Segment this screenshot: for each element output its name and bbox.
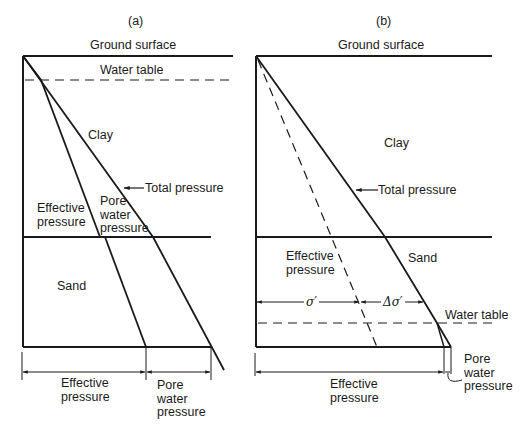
delta-sigma-prime-label: Δσ′ (381, 295, 405, 309)
panel-b-title: (b) (376, 14, 391, 28)
effective-pressure-label-a: Effective pressure (37, 201, 86, 229)
dim-effective-label-a: Effective pressure (61, 376, 110, 404)
sigma-prime-label: σ′ (304, 295, 319, 309)
effective-pressure-label-b: Effective pressure (286, 249, 335, 277)
clay-label-a: Clay (88, 128, 113, 142)
dim-pore-label-a: Pore water pressure (157, 379, 206, 420)
sand-label-a: Sand (57, 279, 86, 293)
clay-label-b: Clay (384, 136, 409, 150)
ground-surface-label-a: Ground surface (90, 38, 176, 52)
water-table-label-a: Water table (100, 63, 163, 77)
total-pressure-label-b: Total pressure (378, 183, 457, 197)
dim-effective-label-b: Effective pressure (330, 377, 379, 405)
sand-label-b: Sand (408, 251, 437, 265)
total-pressure-line-b (256, 56, 451, 347)
pore-water-label-a: Pore water pressure (100, 195, 149, 236)
pore-leader-b (448, 373, 462, 381)
panel-a-title: (a) (128, 14, 143, 28)
effective-pressure-line-sand-a (105, 237, 146, 347)
dim-pore-label-b: Pore water pressure (464, 353, 513, 394)
ground-surface-label-b: Ground surface (338, 38, 424, 52)
total-pressure-label-a: Total pressure (145, 181, 224, 195)
panel-b (255, 56, 497, 381)
water-table-label-b: Water table (445, 308, 508, 322)
